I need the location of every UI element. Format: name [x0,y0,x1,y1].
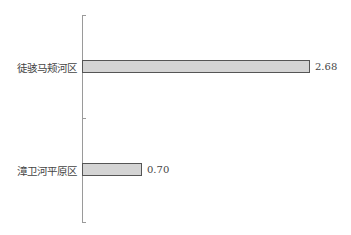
y-axis-tick [82,118,86,119]
bar-zhangwei-plain [82,163,142,176]
category-label: 徒骇马颊河区 [17,60,77,75]
y-axis-tick [82,15,86,16]
y-axis-tick [82,222,86,223]
value-label: 2.68 [315,61,337,72]
category-label: 漳卫河平原区 [17,163,77,178]
bar-tuhai-majia [82,60,310,73]
value-label: 0.70 [147,164,169,175]
y-axis-line [82,15,83,223]
